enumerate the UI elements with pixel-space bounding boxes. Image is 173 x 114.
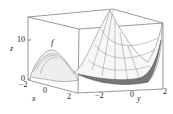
z-tick-10: 10 bbox=[17, 36, 25, 44]
x-tick-0: 0 bbox=[43, 87, 47, 95]
x-tick-2: 2 bbox=[67, 93, 71, 101]
y-tick-0: 0 bbox=[130, 91, 134, 99]
x-axis-label: x bbox=[32, 95, 36, 103]
surface-plot-svg bbox=[0, 0, 173, 114]
function-label: f bbox=[51, 38, 54, 47]
surface-plot-figure: 10 0 z f −2 0 2 x −2 0 2 y bbox=[0, 0, 173, 114]
z-axis-label: z bbox=[10, 45, 13, 53]
x-tick-neg2: −2 bbox=[19, 81, 28, 89]
axis-ticks bbox=[28, 40, 31, 79]
surface-mesh bbox=[30, 10, 162, 84]
y-tick-2: 2 bbox=[163, 88, 167, 96]
y-axis-label: y bbox=[137, 95, 141, 103]
y-tick-neg2: −2 bbox=[95, 92, 104, 100]
